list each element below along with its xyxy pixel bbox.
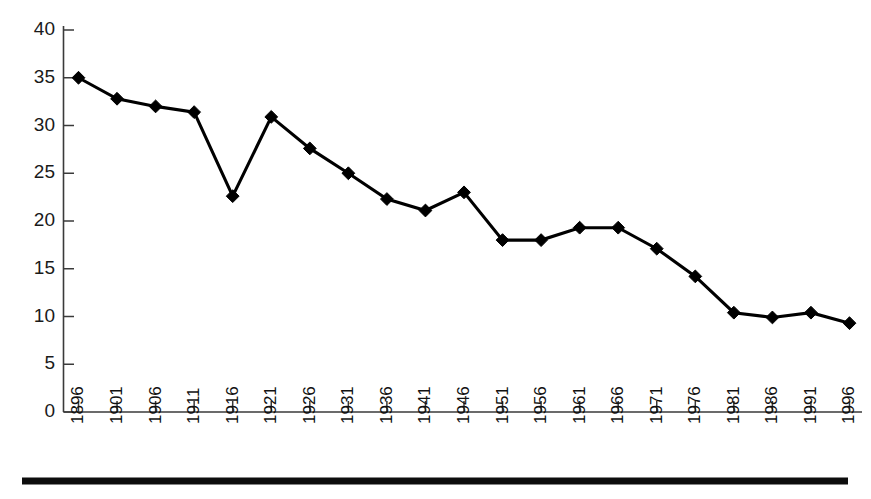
x-tick-label: 1946	[454, 386, 473, 424]
data-point-marker	[149, 100, 162, 113]
x-tick-label: 1941	[415, 386, 434, 424]
data-point-marker	[766, 311, 779, 324]
x-tick-label: 1956	[531, 386, 550, 424]
data-series-group	[72, 71, 856, 329]
x-tick-label: 1906	[146, 386, 165, 424]
series-markers-1	[72, 71, 856, 329]
x-tick-label: 1911	[184, 387, 203, 424]
x-tick-label: 1896	[68, 386, 87, 424]
y-axis-tick-labels: 0510152025303540	[34, 18, 55, 421]
line-chart-canvas: 0510152025303540 18961901190619111916192…	[0, 0, 871, 499]
y-tick-label: 40	[34, 18, 55, 39]
x-tick-label: 1926	[300, 386, 319, 424]
x-tick-label: 1916	[223, 386, 242, 424]
x-tick-label: 1951	[493, 386, 512, 424]
x-tick-label: 1901	[107, 386, 126, 424]
x-tick-label: 1971	[647, 386, 666, 424]
x-tick-label: 1981	[724, 386, 743, 424]
x-tick-label: 1921	[261, 386, 280, 424]
y-tick-label: 20	[34, 209, 55, 230]
data-point-marker	[226, 190, 239, 203]
data-point-marker	[612, 221, 625, 234]
x-tick-label: 1991	[801, 386, 820, 424]
data-point-marker	[111, 92, 124, 105]
x-tick-label: 1966	[608, 386, 627, 424]
x-axis-group: 1896190119061911191619211926193119361941…	[64, 386, 863, 424]
y-tick-label: 5	[44, 352, 55, 373]
x-axis-tick-labels: 1896190119061911191619211926193119361941…	[68, 386, 858, 424]
data-point-marker	[805, 306, 818, 319]
data-point-marker	[573, 221, 586, 234]
x-tick-label: 1996	[839, 386, 858, 424]
y-tick-label: 30	[34, 114, 55, 135]
y-tick-label: 10	[34, 305, 55, 326]
y-tick-label: 0	[44, 400, 55, 421]
data-point-marker	[419, 204, 432, 217]
x-tick-label: 1931	[338, 386, 357, 424]
y-tick-label: 35	[34, 66, 55, 87]
data-point-marker	[535, 234, 548, 247]
x-tick-label: 1976	[685, 386, 704, 424]
y-tick-label: 15	[34, 257, 55, 278]
x-tick-label: 1986	[762, 386, 781, 424]
chart-figure: 0510152025303540 18961901190619111916192…	[0, 0, 871, 499]
x-tick-label: 1961	[570, 386, 589, 424]
data-point-marker	[843, 317, 856, 330]
data-point-marker	[72, 71, 85, 84]
y-axis-ticks	[64, 30, 75, 412]
y-tick-label: 25	[34, 161, 55, 182]
y-axis-group: 0510152025303540	[34, 18, 74, 421]
x-tick-label: 1936	[377, 386, 396, 424]
data-point-marker	[188, 106, 201, 119]
